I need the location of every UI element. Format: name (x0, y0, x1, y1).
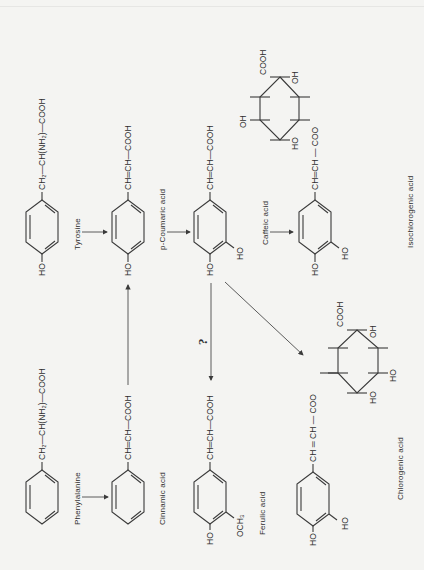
p-coumaric-structure: CH═CH—COOH HO (112, 125, 144, 276)
phenylalanine-label: Phenylalanine (73, 472, 82, 525)
tyrosine-structure: CH₂—CH(NH₂)—COOH HO (26, 98, 58, 276)
caffeic-ho-meta-label: HO (235, 247, 245, 260)
ferulic-structure: CH═CH—COOH HO OCH₃ (194, 395, 245, 545)
ferulic-chain-label: CH═CH—COOH (205, 395, 215, 460)
chloro-cooh-label: COOH (335, 302, 345, 328)
caffeic-label: Caffeic acid (261, 201, 270, 245)
iso-ho-para-label: HO (310, 263, 320, 276)
cinnamic-label: Cinnamic acid (158, 472, 167, 525)
tyrosine-chain-label: CH₂—CH(NH₂)—COOH (37, 98, 47, 190)
chloro-ho-bottom-label: HO (368, 391, 378, 404)
chloro-oh-top-label: OH (368, 325, 378, 338)
quinic-ring (260, 77, 299, 140)
cinnamic-structure: CH═CH—COOH (112, 395, 144, 524)
caffeic-ho-para-label: HO (205, 263, 215, 276)
cinnamic-chain-label: CH═CH—COOH (123, 395, 133, 460)
ferulic-label: Ferulic acid (258, 492, 267, 535)
benzene-ring (26, 200, 58, 254)
caffeic-chain-label: CH═CH—COOH (205, 125, 215, 190)
phenylalanine-chain-label: CH₂—CH(NH₂)—COOH (37, 368, 47, 460)
iso-ho-meta-label: HO (340, 247, 350, 260)
tyrosine-ho-label: HO (37, 263, 47, 276)
caffeic-structure: CH═CH—COOH HO HO (194, 125, 245, 276)
chloro-chain-label: CH ═ CH — COO (308, 394, 318, 462)
coumaric-ho-label: HO (123, 263, 133, 276)
quinic-ring (338, 330, 378, 393)
iso-chain-label: CH═CH — COO (310, 126, 320, 190)
chlorogenic-structure: CH ═ CH — COO HO HO COOH OH HO HO (297, 302, 398, 547)
uncertain-step-marker: ? (195, 339, 210, 346)
coumaric-chain-label: CH═CH—COOH (123, 125, 133, 190)
iso-oh-left-label: OH (238, 115, 248, 128)
chlorogenic-label: Chlorogenic acid (396, 437, 405, 500)
ferulic-och3-label: OCH₃ (235, 515, 245, 537)
iso-cooh-label: COOH (258, 50, 268, 76)
phenylalanine-structure: CH₂—CH(NH₂)—COOH (26, 368, 58, 524)
chloro-ho-para-label: HO (308, 533, 318, 546)
tyrosine-label: Tyrosine (73, 218, 82, 250)
ferulic-ho-label: HO (205, 532, 215, 545)
isochlorogenic-label: Isochlorogenic acid (406, 176, 415, 248)
iso-oh-top-label: OH (290, 71, 300, 84)
iso-ho-bottom-label: HO (290, 137, 300, 150)
figure-page: CH₂—CH(NH₂)—COOH HO Tyrosine CH═CH—COOH … (0, 0, 424, 570)
isochlorogenic-structure: CH═CH — COO HO HO COOH OH OH HO (238, 50, 350, 277)
p-coumaric-label: p-Coumaric acid (158, 189, 167, 250)
pathway-diagram: CH₂—CH(NH₂)—COOH HO Tyrosine CH═CH—COOH … (0, 0, 424, 570)
arrow-coumaric-to-chlorogenic (225, 282, 303, 355)
chloro-ho-meta-label: HO (340, 517, 350, 530)
chloro-ho-right-label: HO (388, 369, 398, 382)
